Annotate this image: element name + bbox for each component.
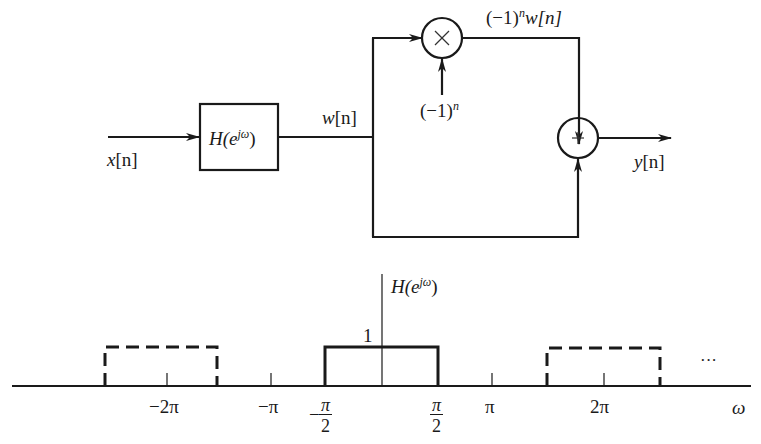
output-label: y[n] [634,152,665,171]
diagram-canvas [0,0,761,444]
xlabel-omega: ω [732,398,745,417]
tick-2pi: 2π [590,397,609,416]
tick-neg-half-pi: π 2 [319,396,332,435]
tick-neg-pi: −π [258,397,278,416]
lower-branch-path [372,159,578,237]
tick-neg-2pi: −2π [149,397,179,416]
modulator-label: (−1)n [420,100,459,120]
modulated-label: (−1)nw[n] [486,7,562,27]
amplitude-label: 1 [363,326,373,345]
filter-label: H(ejω) [209,128,256,148]
plot-ylabel: H(ejω) [391,276,438,296]
intermediate-label: w[n] [322,108,357,127]
tick-half-pi: π 2 [430,396,443,435]
replica-left [105,347,217,386]
ellipsis: ··· [700,352,717,369]
input-label: x[n] [107,150,138,169]
tick-pi: π [485,397,495,416]
